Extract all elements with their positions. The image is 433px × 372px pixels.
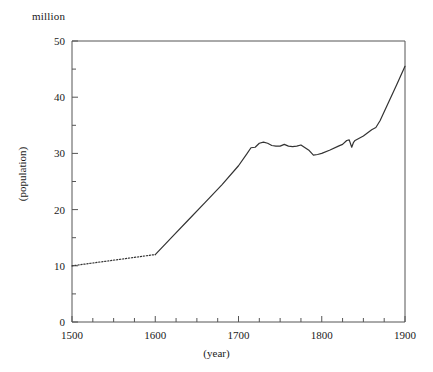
plot-area: 01020304050 15001600170018001900 [0, 0, 433, 372]
series-line-estimated-population [72, 255, 155, 266]
series-line-recorded-population [155, 66, 405, 254]
x-tick-label: 1500 [61, 329, 84, 341]
x-tick-label: 1900 [394, 329, 417, 341]
y-tick-label: 40 [54, 91, 66, 103]
x-tick-label: 1600 [144, 329, 167, 341]
y-axis-ticks: 01020304050 [54, 35, 78, 328]
y-tick-label: 50 [54, 35, 66, 47]
y-tick-label: 30 [54, 147, 66, 159]
x-axis-ticks: 15001600170018001900 [61, 316, 417, 341]
y-tick-label: 20 [54, 204, 66, 216]
y-tick-label: 10 [54, 260, 66, 272]
data-series-group [72, 66, 405, 266]
axis-frame [72, 41, 405, 322]
x-tick-label: 1800 [311, 329, 334, 341]
population-chart-figure: million (population) (year) 01020304050 … [0, 0, 433, 372]
y-tick-label: 0 [60, 316, 66, 328]
x-tick-label: 1700 [228, 329, 251, 341]
